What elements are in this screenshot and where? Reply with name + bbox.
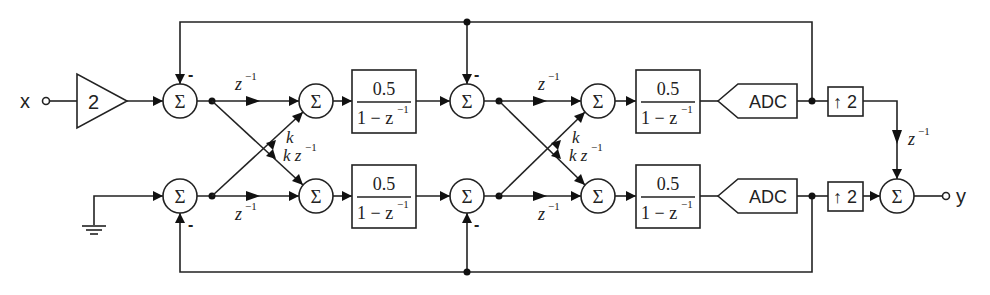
- integrator-filter-2-top: 0.5 1 − z −1: [615, 70, 718, 133]
- svg-text:−1: −1: [681, 198, 693, 210]
- sum-junction-output: Σ: [880, 179, 942, 213]
- input-label: x: [20, 90, 30, 112]
- integrator-filter-1-top: 0.5 1 − z −1: [333, 70, 450, 133]
- svg-text:−1: −1: [245, 200, 257, 212]
- svg-text:−1: −1: [681, 103, 693, 115]
- sum-junction-2-top: Σ: [299, 84, 333, 118]
- integrator-filter-2-bottom: 0.5 1 − z −1: [615, 165, 718, 228]
- gain-block: 2: [77, 74, 163, 128]
- ground-icon: [82, 191, 163, 234]
- svg-text:0.5: 0.5: [657, 174, 680, 194]
- svg-text:−1: −1: [591, 141, 603, 153]
- svg-text:Σ: Σ: [461, 91, 472, 112]
- sum-junction-4-top: Σ: [581, 84, 615, 118]
- minus-sign: -: [474, 216, 479, 233]
- svg-text:z: z: [234, 74, 242, 94]
- svg-text:1 − z: 1 − z: [641, 203, 677, 223]
- top-feedback-path: [175, 19, 812, 102]
- gain-value: 2: [88, 91, 99, 113]
- cross-gain-k: k: [286, 128, 294, 147]
- svg-text:0.5: 0.5: [657, 79, 680, 99]
- svg-text:Σ: Σ: [592, 186, 603, 207]
- svg-text:Σ: Σ: [592, 91, 603, 112]
- svg-text:Σ: Σ: [310, 91, 321, 112]
- svg-text:0.5: 0.5: [373, 79, 396, 99]
- minus-sign: -: [188, 216, 193, 233]
- svg-text:ADC: ADC: [749, 92, 787, 112]
- svg-text:Σ: Σ: [310, 186, 321, 207]
- block-diagram: x 2 Σ - Σ -: [0, 0, 990, 295]
- cross-gain-kz: k z: [283, 146, 302, 165]
- cross-gain-k: k: [572, 128, 580, 147]
- upsampler-top: ↑ 2 z −1: [828, 87, 930, 179]
- svg-text:Σ: Σ: [461, 186, 472, 207]
- input-terminal: x: [20, 90, 77, 112]
- svg-text:↑ 2: ↑ 2: [833, 187, 857, 207]
- svg-text:z: z: [537, 204, 545, 224]
- sum-junction-2-bottom: Σ: [299, 179, 333, 213]
- svg-text:−1: −1: [918, 125, 930, 137]
- output-terminal: y: [943, 185, 967, 207]
- svg-text:−1: −1: [548, 70, 560, 82]
- upsampler-bottom: ↑ 2: [828, 182, 880, 211]
- lattice-stage-1: z −1 z −1 k k z −1: [197, 70, 317, 224]
- cross-gain-kz: k z: [569, 146, 588, 165]
- svg-text:1 − z: 1 − z: [357, 203, 393, 223]
- svg-text:z: z: [907, 129, 915, 149]
- svg-text:−1: −1: [305, 141, 317, 153]
- svg-text:0.5: 0.5: [373, 174, 396, 194]
- svg-text:z: z: [234, 204, 242, 224]
- minus-sign: -: [474, 66, 479, 83]
- svg-text:−1: −1: [397, 198, 409, 210]
- svg-text:z: z: [537, 74, 545, 94]
- minus-sign: -: [188, 66, 193, 83]
- svg-text:↑ 2: ↑ 2: [833, 92, 857, 112]
- svg-text:1 − z: 1 − z: [357, 108, 393, 128]
- svg-text:−1: −1: [548, 200, 560, 212]
- svg-text:−1: −1: [397, 103, 409, 115]
- integrator-filter-1-bottom: 0.5 1 − z −1: [333, 165, 450, 228]
- svg-text:Σ: Σ: [891, 186, 902, 207]
- output-label: y: [956, 185, 966, 207]
- bottom-feedback-path: [175, 196, 812, 276]
- svg-text:−1: −1: [245, 70, 257, 82]
- sum-junction-4-bottom: Σ: [581, 179, 615, 213]
- svg-text:Σ: Σ: [174, 186, 185, 207]
- svg-text:1 − z: 1 − z: [641, 108, 677, 128]
- svg-text:Σ: Σ: [174, 91, 185, 112]
- svg-text:ADC: ADC: [749, 187, 787, 207]
